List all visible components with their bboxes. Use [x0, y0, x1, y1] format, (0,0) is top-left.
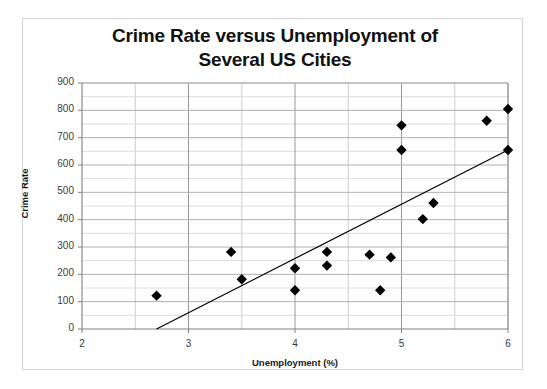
data-point-markers [151, 104, 513, 301]
y-tick-label: 700 [40, 131, 74, 142]
y-tick-label: 600 [40, 158, 74, 169]
data-point [226, 247, 236, 257]
y-tick-label: 900 [40, 76, 74, 87]
x-tick-label: 6 [496, 338, 520, 349]
data-point [322, 247, 332, 257]
y-tick-label: 400 [40, 213, 74, 224]
data-point [290, 263, 300, 273]
y-tick-label: 200 [40, 267, 74, 278]
y-axis-title: Crime Rate [19, 154, 30, 234]
y-tick-label: 500 [40, 185, 74, 196]
data-point [375, 285, 385, 295]
data-point [418, 214, 428, 224]
x-tick-label: 4 [283, 338, 307, 349]
x-tick-label: 2 [70, 338, 94, 349]
plot-area [0, 0, 547, 389]
x-axis-title: Unemployment (%) [195, 357, 395, 368]
data-point [364, 249, 374, 259]
x-tick-label: 5 [390, 338, 414, 349]
tick-marks [78, 83, 508, 333]
data-point [322, 260, 332, 270]
data-point [428, 198, 438, 208]
chart-figure: Crime Rate versus Unemployment of Severa… [0, 0, 547, 389]
data-point [396, 145, 406, 155]
data-point [237, 274, 247, 284]
data-point [151, 290, 161, 300]
y-tick-label: 100 [40, 295, 74, 306]
data-point [396, 120, 406, 130]
data-point [503, 104, 513, 114]
y-tick-label: 0 [40, 322, 74, 333]
data-point [290, 285, 300, 295]
y-tick-label: 800 [40, 103, 74, 114]
y-tick-label: 300 [40, 240, 74, 251]
data-point [503, 145, 513, 155]
x-tick-label: 3 [177, 338, 201, 349]
